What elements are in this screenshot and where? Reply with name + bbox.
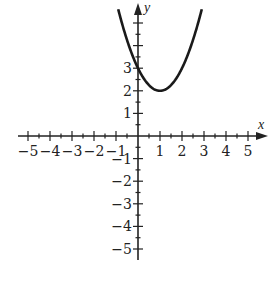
y-tick-label: −4 (111, 218, 132, 234)
x-tick-label: 5 (244, 143, 253, 159)
y-tick-label: −3 (111, 196, 132, 212)
y-tick-label: 2 (123, 83, 132, 99)
x-axis-arrow-icon (256, 132, 268, 140)
parabola-curve (118, 9, 202, 91)
x-tick-label: 3 (200, 143, 209, 159)
x-tick-label: −2 (84, 143, 105, 159)
x-tick-label: 2 (178, 143, 187, 159)
x-tick-label: 1 (156, 143, 165, 159)
x-tick-label: −4 (40, 143, 61, 159)
y-tick-label: −2 (111, 173, 132, 189)
y-tick-label: −5 (111, 241, 132, 257)
y-tick-label: 1 (123, 105, 132, 121)
x-tick-label: 4 (222, 143, 231, 159)
y-axis-arrow-icon (134, 3, 142, 15)
parabola-chart: xy−5−4−3−2−112345−5−4−3−2−1123 (0, 0, 274, 285)
y-tick-label: 3 (123, 60, 132, 76)
y-axis-label: y (142, 0, 151, 15)
y-tick-label: −1 (111, 151, 132, 167)
x-tick-label: −3 (62, 143, 83, 159)
x-tick-label: −5 (18, 143, 39, 159)
x-axis-label: x (257, 117, 265, 132)
